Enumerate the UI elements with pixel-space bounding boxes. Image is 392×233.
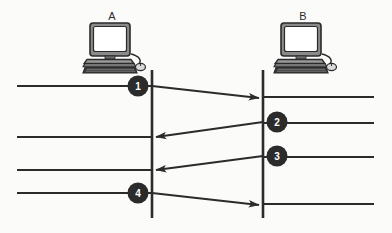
step-badge-3-label: 3	[274, 151, 280, 162]
step-badge-4-label: 4	[135, 188, 141, 199]
desktop-computer-icon-b	[274, 23, 337, 73]
step-badge-2-label: 2	[274, 117, 280, 128]
host-label-a: A	[108, 10, 116, 22]
host-label-b: B	[299, 10, 306, 22]
desktop-computer-icon-a	[83, 23, 146, 73]
message-arrow-1	[152, 86, 259, 98]
diagram-svg: A B	[0, 0, 392, 233]
message-arrow-4	[152, 193, 259, 205]
message-arrow-2	[156, 122, 263, 137]
sequence-diagram-canvas: A B	[0, 0, 392, 233]
step-badge-1-label: 1	[135, 81, 141, 92]
step-badge-4[interactable]: 4	[128, 183, 149, 204]
step-badge-1[interactable]: 1	[128, 76, 149, 97]
step-badge-2[interactable]: 2	[267, 112, 288, 133]
message-arrow-3	[156, 156, 263, 170]
step-badge-3[interactable]: 3	[267, 146, 288, 167]
